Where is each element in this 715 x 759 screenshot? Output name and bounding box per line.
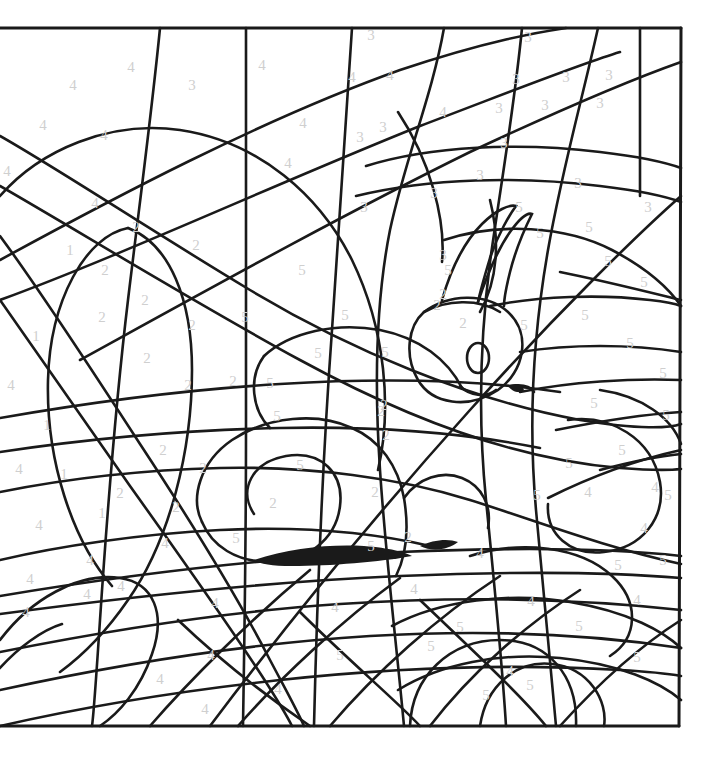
region-number: 5	[575, 618, 583, 634]
region-number: 4	[331, 599, 339, 615]
region-number: 2	[269, 495, 277, 511]
region-number: 2	[459, 315, 467, 331]
region-number: 5	[296, 457, 304, 473]
region-number: 5	[520, 317, 528, 333]
region-number: 3	[476, 167, 484, 183]
region-number: 5	[482, 687, 490, 703]
region-number: 2	[116, 485, 124, 501]
region-number: 3	[574, 175, 582, 191]
region-number: 4	[640, 520, 648, 536]
region-number: 5	[604, 253, 612, 269]
region-number: 4	[410, 581, 418, 597]
region-number: 2	[159, 442, 167, 458]
region-number: 5	[662, 407, 670, 423]
region-number: 4	[161, 535, 169, 551]
region-number: 5	[633, 649, 641, 665]
region-number: 5	[590, 395, 598, 411]
region-number: 4	[22, 604, 30, 620]
region-number: 4	[439, 104, 447, 120]
region-number: 2	[98, 309, 106, 325]
region-number: 2	[141, 292, 149, 308]
region-number: 2	[229, 373, 237, 389]
region-number: 1	[98, 505, 106, 521]
region-number: 4	[299, 115, 307, 131]
region-number: 4	[651, 479, 659, 495]
region-number: 5	[585, 219, 593, 235]
region-number: 3	[605, 67, 613, 83]
region-number: 3	[524, 29, 532, 45]
region-number: 3	[495, 100, 503, 116]
region-number: 2	[382, 427, 390, 443]
region-number: 4	[39, 117, 47, 133]
region-number: 5	[298, 262, 306, 278]
region-number: 4	[127, 59, 135, 75]
region-number: 5	[381, 344, 389, 360]
region-number: 5	[565, 455, 573, 471]
region-number: 5	[659, 552, 667, 568]
region-number: 5	[232, 530, 240, 546]
region-number: 5	[241, 309, 249, 325]
region-number: 4	[15, 461, 23, 477]
region-number: 5	[664, 487, 672, 503]
region-number: 4	[527, 593, 535, 609]
region-number: 4	[156, 671, 164, 687]
region-number: 5	[273, 408, 281, 424]
region-number: 4	[83, 586, 91, 602]
region-number: 4	[207, 647, 215, 663]
region-number: 2	[439, 286, 447, 302]
region-number: 4	[35, 517, 43, 533]
region-number: 3	[562, 69, 570, 85]
region-number: 4	[69, 77, 77, 93]
region-number: 4	[201, 701, 209, 717]
region-number: 3	[367, 27, 375, 43]
region-number: 3	[360, 199, 368, 215]
region-number: 2	[199, 460, 207, 476]
region-number: 5	[640, 274, 648, 290]
region-number: 2	[380, 397, 388, 413]
region-number: 5	[536, 225, 544, 241]
region-number: 5	[626, 335, 634, 351]
region-number: 4	[633, 592, 641, 608]
region-number: 3	[379, 119, 387, 135]
region-number: 2	[172, 499, 180, 515]
region-number: 4	[7, 377, 15, 393]
region-number: 4	[386, 67, 394, 83]
region-number: 5	[367, 538, 375, 554]
region-number: 1	[60, 466, 68, 482]
region-number: 5	[581, 307, 589, 323]
region-number: 5	[659, 365, 667, 381]
region-number: 5	[614, 557, 622, 573]
region-number: 2	[184, 377, 192, 393]
region-number: 4	[91, 195, 99, 211]
coloring-page: 4433333344443334334434223353312555522255…	[0, 0, 715, 759]
region-number: 4	[86, 552, 94, 568]
region-number: 4	[506, 663, 514, 679]
region-number: 4	[26, 571, 34, 587]
region-number: 4	[100, 127, 108, 143]
region-number: 2	[188, 317, 196, 333]
region-number: 5	[526, 677, 534, 693]
region-number: 4	[348, 69, 356, 85]
region-number: 3	[188, 77, 196, 93]
region-number: 5	[341, 307, 349, 323]
region-number: 2	[404, 529, 412, 545]
region-number: 5	[266, 375, 274, 391]
region-number: 2	[143, 350, 151, 366]
region-number: 3	[500, 135, 508, 151]
region-number: 3	[512, 71, 520, 87]
region-number: 3	[439, 247, 447, 263]
coloring-page-canvas: 4433333344443334334434223353312555522255…	[0, 0, 715, 759]
region-number: 2	[371, 484, 379, 500]
region-number: 1	[32, 328, 40, 344]
region-number: 5	[314, 345, 322, 361]
region-number: 5	[533, 487, 541, 503]
region-number: 4	[274, 681, 282, 697]
region-number: 3	[596, 95, 604, 111]
region-number: 4	[211, 595, 219, 611]
region-number: 4	[584, 484, 592, 500]
region-number: 2	[101, 262, 109, 278]
region-number: 3	[644, 199, 652, 215]
region-number: 1	[66, 242, 74, 258]
region-number: 3	[541, 97, 549, 113]
region-number: 2	[192, 237, 200, 253]
